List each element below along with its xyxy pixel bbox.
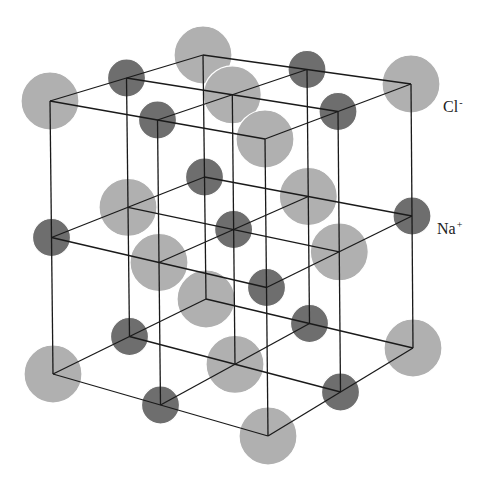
sodium-symbol: Na <box>437 220 456 237</box>
chloride-symbol: Cl <box>443 98 458 115</box>
chloride-label: Cl- <box>443 98 462 115</box>
sodium-label: Na+ <box>437 220 462 237</box>
nacl-lattice-diagram <box>0 0 487 484</box>
sodium-charge: + <box>457 219 463 230</box>
chloride-charge: - <box>459 97 462 108</box>
